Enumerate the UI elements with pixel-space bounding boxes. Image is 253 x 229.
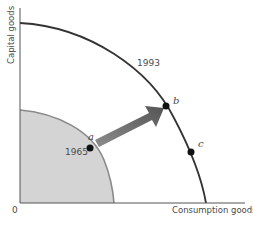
point-c-label: c <box>198 138 204 149</box>
curve-1993-label: 1993 <box>137 58 160 68</box>
curve-1965-label: 1965 <box>65 147 88 157</box>
ppf-diagram: a b c 1965 1993 0 Consumption goods Capi… <box>0 0 253 229</box>
y-axis-label: Capital goods <box>6 5 16 64</box>
point-c <box>188 149 195 156</box>
origin-label: 0 <box>12 205 18 215</box>
growth-arrow <box>95 106 164 147</box>
x-axis-label: Consumption goods <box>172 205 253 215</box>
point-a-label: a <box>88 131 94 142</box>
point-b <box>163 103 170 110</box>
point-b-label: b <box>173 95 179 106</box>
